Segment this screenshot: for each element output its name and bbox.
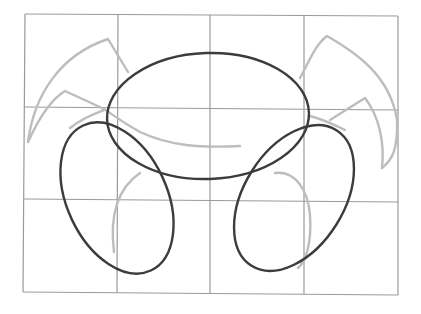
- grid: [23, 14, 398, 295]
- drawing-canvas: [0, 0, 421, 314]
- body-ellipse: [105, 50, 311, 183]
- right-claw: [300, 36, 397, 168]
- left-claw: [28, 39, 240, 147]
- crab-sketch: [0, 0, 421, 314]
- right-leg-ellipse: [209, 104, 379, 293]
- right-leg-arch: [275, 173, 310, 268]
